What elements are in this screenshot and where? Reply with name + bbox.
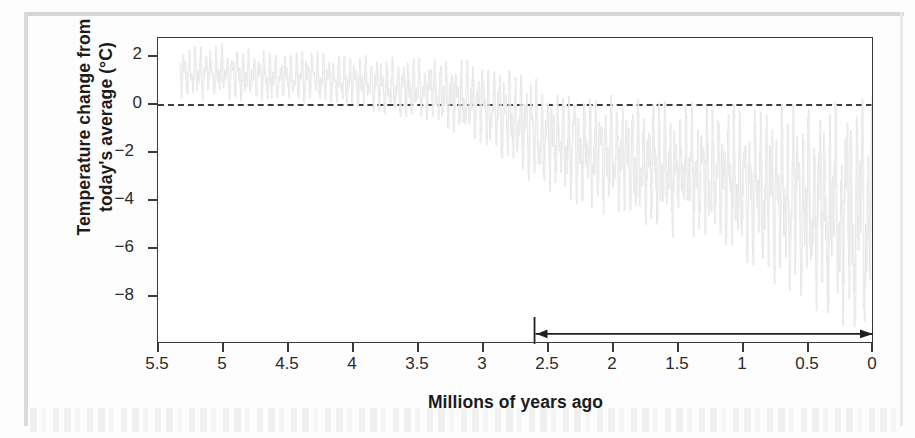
figure-root: Temperature change from today's average … bbox=[0, 0, 915, 438]
quaternary-range-arrow bbox=[0, 0, 915, 438]
arrow-head-left bbox=[537, 330, 548, 339]
arrow-head-right bbox=[860, 330, 873, 339]
